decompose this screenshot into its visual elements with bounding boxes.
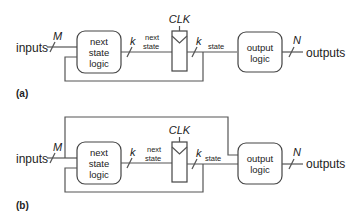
- state-width-label: k: [196, 147, 202, 159]
- output-logic-line2: logic: [250, 164, 270, 175]
- next-state-signal-line1: next: [147, 145, 162, 154]
- fsm-diagrams: inputs M next state logic k next state C…: [0, 0, 358, 219]
- next-state-width-label: k: [130, 146, 136, 158]
- state-register: [172, 31, 187, 71]
- inputs-label: inputs: [16, 152, 48, 166]
- next-state-logic-line1: next: [90, 36, 108, 47]
- output-logic-line2: logic: [250, 53, 270, 64]
- outputs-label: outputs: [306, 157, 345, 171]
- inputs-width-label: M: [53, 30, 63, 42]
- next-state-signal-line1: next: [145, 33, 160, 42]
- output-logic-line1: output: [247, 153, 274, 164]
- inputs-label: inputs: [16, 41, 48, 55]
- state-width-label: k: [196, 35, 202, 47]
- state-signal-label: state: [205, 154, 221, 163]
- next-state-logic-line1: next: [90, 147, 108, 158]
- outputs-width-label: N: [293, 146, 301, 158]
- diagram-a-label: (a): [16, 88, 28, 99]
- next-state-logic-line2: state: [89, 158, 110, 169]
- state-signal-label: state: [208, 42, 224, 51]
- next-state-signal-line2: state: [145, 154, 161, 163]
- next-state-signal-line2: state: [143, 42, 159, 51]
- output-logic-line1: output: [247, 42, 274, 53]
- diagram-a: inputs M next state logic k next state C…: [16, 13, 345, 99]
- next-state-logic-line3: logic: [89, 58, 109, 69]
- diagram-b-label: (b): [16, 200, 29, 211]
- clock-label: CLK: [169, 13, 191, 25]
- outputs-label: outputs: [306, 46, 345, 60]
- next-state-logic-line3: logic: [89, 169, 109, 180]
- clock-label: CLK: [169, 124, 191, 136]
- outputs-width-label: N: [293, 34, 301, 46]
- next-state-logic-line2: state: [89, 47, 110, 58]
- next-state-width-label: k: [130, 35, 136, 47]
- diagram-b: inputs M next state logic k next state C…: [16, 117, 345, 211]
- state-register: [172, 142, 187, 182]
- inputs-width-label: M: [53, 141, 63, 153]
